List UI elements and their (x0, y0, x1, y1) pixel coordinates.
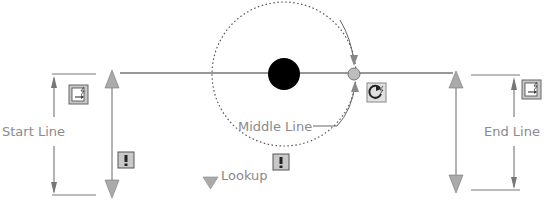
rotation-action-icon[interactable] (367, 83, 386, 102)
end-stretch-grip[interactable] (449, 71, 463, 193)
warning-icon[interactable] (118, 152, 134, 168)
lookup-grip-icon[interactable] (203, 177, 218, 189)
block-parameter-diagram: Middle Line Start Line Lookup (0, 0, 557, 207)
start-line-label: Start Line (2, 124, 65, 139)
base-point[interactable] (268, 58, 300, 90)
edit-parameter-icon[interactable] (69, 85, 88, 104)
edit-parameter-icon[interactable] (522, 80, 541, 99)
rotation-grip[interactable] (348, 68, 360, 80)
start-stretch-grip[interactable] (105, 70, 119, 198)
lookup-label: Lookup (221, 168, 268, 183)
warning-icon[interactable] (273, 154, 289, 170)
end-line-label: End Line (484, 124, 540, 139)
middle-line-label: Middle Line (238, 119, 312, 134)
